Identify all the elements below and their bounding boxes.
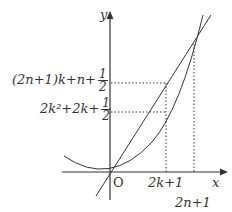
y-axis-label: y <box>100 8 107 21</box>
y-label-upper-fraction: 12 <box>98 68 108 93</box>
y-label-upper: (2n+1)k+n+12 <box>12 68 108 93</box>
x-label-2k1: 2k+1 <box>148 176 183 189</box>
fraction-denominator: 2 <box>101 110 111 122</box>
x-label-2n1: 2n+1 <box>175 196 211 209</box>
y-label-lower-fraction: 12 <box>101 97 111 122</box>
fraction-denominator: 2 <box>98 81 108 93</box>
y-label-lower: 2k²+2k+12 <box>40 97 111 122</box>
y-axis-arrow-icon <box>107 11 114 19</box>
line-curve <box>96 15 211 196</box>
origin-label: O <box>113 176 124 189</box>
x-axis-arrow-icon <box>220 169 228 176</box>
y-label-upper-main: (2n+1)k+n+ <box>12 72 96 87</box>
x-axis-label: x <box>212 176 219 189</box>
y-label-lower-main: 2k²+2k+ <box>40 101 99 116</box>
